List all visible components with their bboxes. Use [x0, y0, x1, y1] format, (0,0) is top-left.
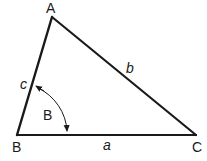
side-b-label: b: [126, 60, 134, 76]
triangle-diagram: A B C a b c B: [0, 0, 207, 161]
side-b-line: [52, 17, 196, 135]
triangle-svg: A B C a b c B: [0, 0, 207, 161]
angle-b-arc-start-arrow: [36, 86, 44, 91]
side-a-label: a: [103, 137, 111, 153]
side-c-label: c: [20, 76, 27, 92]
vertex-b-label: B: [12, 139, 21, 155]
vertex-c-label: C: [192, 139, 202, 155]
vertex-a-label: A: [46, 0, 56, 16]
angle-b-label: B: [43, 107, 52, 123]
